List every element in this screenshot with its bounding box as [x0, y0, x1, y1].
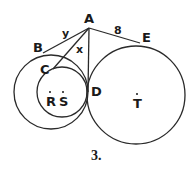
label-C: C — [40, 63, 50, 76]
label-E: E — [142, 31, 151, 44]
label-S: S — [59, 95, 68, 108]
label-A: A — [84, 12, 94, 25]
label-y: y — [62, 28, 69, 39]
label-B: B — [33, 41, 43, 54]
point-R-dot — [49, 91, 51, 93]
label-T: T — [133, 97, 142, 110]
label-D: D — [91, 85, 102, 98]
point-T-dot — [136, 93, 138, 95]
segment-AC — [53, 28, 89, 69]
figure-caption: 3. — [91, 148, 102, 164]
label-8: 8 — [114, 25, 122, 36]
point-S-dot — [62, 91, 64, 93]
label-R: R — [46, 95, 56, 108]
label-x: x — [76, 44, 83, 55]
diagram-canvas: A B C D E R S T y x 8 3. — [0, 0, 190, 172]
